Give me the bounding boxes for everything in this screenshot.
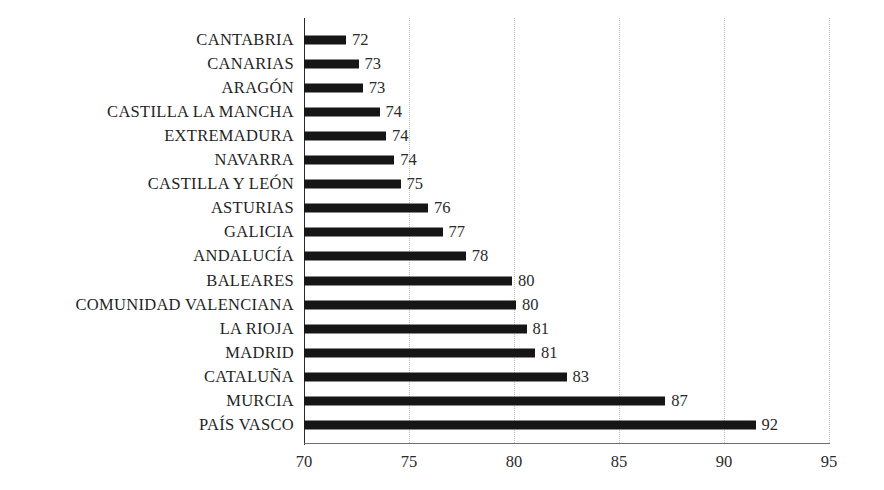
bar-value-label: 73 <box>359 54 382 74</box>
bar-row: CANARIAS73 <box>0 52 884 76</box>
bar-value-label: 80 <box>516 295 539 315</box>
bar <box>304 108 380 117</box>
category-label: CANARIAS <box>207 54 294 74</box>
bar <box>304 132 386 141</box>
bar <box>304 348 535 357</box>
category-label: GALICIA <box>224 222 294 242</box>
bar-value-label: 81 <box>535 343 558 363</box>
bar-value-label: 74 <box>386 126 409 146</box>
bar <box>304 372 567 381</box>
bar-row: PAÍS VASCO92 <box>0 413 884 437</box>
bar <box>304 60 359 69</box>
bar-row: CATALUÑA83 <box>0 365 884 389</box>
category-label: CASTILLA LA MANCHA <box>107 102 294 122</box>
category-label: COMUNIDAD VALENCIANA <box>75 295 294 315</box>
plot-area: CANTABRIA72CANARIAS73ARAGÓN73CASTILLA LA… <box>0 0 884 490</box>
category-label: BALEARES <box>206 271 294 291</box>
bar-value-label: 80 <box>512 271 535 291</box>
category-label: CANTABRIA <box>196 30 294 50</box>
bar-row: LA RIOJA81 <box>0 317 884 341</box>
bar-row: COMUNIDAD VALENCIANA80 <box>0 293 884 317</box>
category-label: ANDALUCÍA <box>193 246 294 266</box>
bar-value-label: 77 <box>443 222 466 242</box>
bar-row: BALEARES80 <box>0 269 884 293</box>
bar-row: MURCIA87 <box>0 389 884 413</box>
category-label: CASTILLA Y LEÓN <box>148 174 294 194</box>
x-tick-label-95: 95 <box>821 452 838 472</box>
bar-row: EXTREMADURA74 <box>0 124 884 148</box>
category-label: MURCIA <box>226 391 294 411</box>
bar-row: ASTURIAS76 <box>0 196 884 220</box>
bar <box>304 36 346 45</box>
x-tick-label-80: 80 <box>506 452 523 472</box>
category-label: EXTREMADURA <box>164 126 294 146</box>
category-label: NAVARRA <box>215 150 294 170</box>
bar <box>304 396 665 405</box>
bar-value-label: 73 <box>363 78 386 98</box>
bar-value-label: 78 <box>466 246 489 266</box>
category-label: CATALUÑA <box>204 367 294 387</box>
bar-value-label: 83 <box>567 367 590 387</box>
x-tick-label-90: 90 <box>716 452 733 472</box>
category-label: MADRID <box>225 343 294 363</box>
bar <box>304 204 428 213</box>
bar-value-label: 74 <box>394 150 417 170</box>
category-label: PAÍS VASCO <box>199 415 294 435</box>
x-tick-label-75: 75 <box>401 452 418 472</box>
bar <box>304 228 443 237</box>
bar <box>304 84 363 93</box>
bar-row: ANDALUCÍA78 <box>0 244 884 268</box>
bar-value-label: 74 <box>380 102 403 122</box>
bar <box>304 180 401 189</box>
bar-row: CANTABRIA72 <box>0 28 884 52</box>
bar <box>304 300 516 309</box>
bar-value-label: 76 <box>428 198 451 218</box>
bar-value-label: 92 <box>756 415 779 435</box>
bar <box>304 276 512 285</box>
bar-row: GALICIA77 <box>0 220 884 244</box>
x-tick-label-70: 70 <box>296 452 313 472</box>
bar <box>304 252 466 261</box>
x-axis-line <box>304 443 830 444</box>
horizontal-bar-chart: CANTABRIA72CANARIAS73ARAGÓN73CASTILLA LA… <box>0 0 884 490</box>
bar-value-label: 87 <box>665 391 688 411</box>
bar-row: NAVARRA74 <box>0 148 884 172</box>
bar <box>304 156 394 165</box>
bar <box>304 324 527 333</box>
bar <box>304 420 756 429</box>
bar-row: CASTILLA Y LEÓN75 <box>0 172 884 196</box>
bar-row: CASTILLA LA MANCHA74 <box>0 100 884 124</box>
category-label: ARAGÓN <box>222 78 294 98</box>
bar-value-label: 81 <box>527 319 550 339</box>
x-tick-label-85: 85 <box>611 452 628 472</box>
category-label: ASTURIAS <box>211 198 294 218</box>
bar-row: ARAGÓN73 <box>0 76 884 100</box>
category-label: LA RIOJA <box>220 319 294 339</box>
bar-value-label: 72 <box>346 30 369 50</box>
bar-value-label: 75 <box>401 174 424 194</box>
bar-row: MADRID81 <box>0 341 884 365</box>
